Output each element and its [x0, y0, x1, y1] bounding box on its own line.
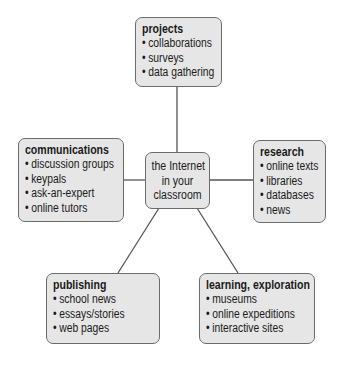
- line-to-publishing: [118, 208, 159, 273]
- list-item: surveys: [142, 51, 205, 66]
- list-item: data gathering: [142, 65, 205, 80]
- list-item: libraries: [260, 174, 311, 189]
- list-item: online texts: [260, 159, 311, 174]
- node-title: research: [260, 146, 312, 159]
- line-to-learning: [197, 208, 238, 273]
- list-item: web pages: [53, 321, 139, 336]
- center-line: in your: [152, 174, 204, 189]
- list-item: discussion groups: [25, 157, 104, 172]
- center-line: the Internet: [152, 159, 204, 174]
- node-title: learning, exploration: [206, 279, 296, 292]
- node-title: projects: [142, 23, 206, 36]
- node-communications: communications discussion groups keypals…: [18, 138, 124, 222]
- list-item: essays/stories: [53, 307, 139, 322]
- list-item: databases: [260, 188, 311, 203]
- node-projects: projects collaborations surveys data gat…: [135, 17, 222, 87]
- node-publishing: publishing school news essays/stories we…: [46, 273, 160, 344]
- list-item: school news: [53, 292, 139, 307]
- node-center: the Internet in your classroom: [145, 152, 210, 209]
- node-title: publishing: [53, 279, 141, 292]
- list-item: collaborations: [142, 36, 205, 51]
- list-item: museums: [206, 292, 294, 307]
- list-item: online tutors: [25, 201, 104, 216]
- node-learning-exploration: learning, exploration museums online exp…: [199, 273, 315, 344]
- list-item: news: [260, 203, 311, 218]
- list-item: online expeditions: [206, 307, 294, 322]
- node-title: communications: [25, 144, 106, 157]
- center-line: classroom: [152, 188, 204, 203]
- node-research: research online texts libraries database…: [253, 140, 326, 223]
- list-item: ask-an-expert: [25, 186, 104, 201]
- list-item: keypals: [25, 172, 104, 187]
- list-item: interactive sites: [206, 321, 294, 336]
